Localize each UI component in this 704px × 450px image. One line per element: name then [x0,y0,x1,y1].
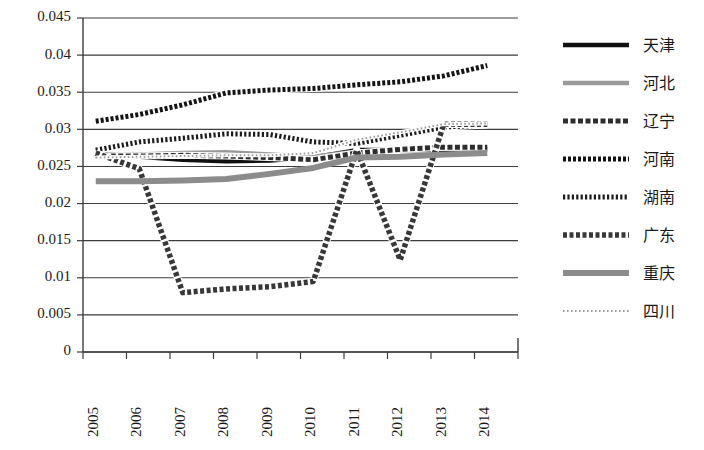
y-axis-labels: 00.0050.010.0150.020.0250.030.0350.040.0… [37,8,71,358]
legend-label-四川: 四川 [643,302,675,321]
y-tick-label: 0.005 [37,305,71,321]
x-tick-label: 2013 [433,407,449,437]
series-halo-3 [96,66,488,122]
legend-label-河南: 河南 [643,150,675,169]
line-chart: 00.0050.010.0150.020.0250.030.0350.040.0… [0,0,704,450]
x-tick-label: 2008 [215,407,231,437]
legend-label-辽宁: 辽宁 [643,112,675,131]
x-tick-label: 2014 [476,407,492,438]
y-tick-label: 0.045 [37,8,71,24]
chart-canvas: 00.0050.010.0150.020.0250.030.0350.040.0… [0,0,704,450]
y-tick-label: 0 [64,342,72,358]
y-tick-label: 0.035 [37,83,71,99]
legend-label-天津: 天津 [643,36,675,55]
y-tick-label: 0.02 [45,194,71,210]
y-tick-label: 0.025 [37,157,71,173]
x-tick-label: 2009 [259,407,275,437]
chart-legend: 天津河北辽宁河南湖南广东重庆四川 [563,36,675,321]
y-axis-ticks [77,18,83,352]
x-tick-label: 2007 [172,407,188,438]
y-tick-label: 0.01 [45,268,71,284]
y-tick-label: 0.03 [45,120,71,136]
x-axis-labels: 2005200620072008200920102011201220132014 [85,407,493,438]
x-axis-ticks [83,352,518,359]
series-lines [96,66,488,293]
x-tick-label: 2010 [302,407,318,437]
x-tick-label: 2006 [128,407,144,438]
x-tick-label: 2011 [346,407,362,436]
y-tick-label: 0.04 [45,46,72,62]
y-tick-label: 0.015 [37,231,71,247]
legend-label-重庆: 重庆 [643,264,675,283]
legend-label-湖南: 湖南 [643,188,675,207]
x-tick-label: 2005 [85,407,101,437]
legend-label-河北: 河北 [643,74,675,93]
legend-label-广东: 广东 [643,226,675,245]
x-tick-label: 2012 [389,407,405,437]
